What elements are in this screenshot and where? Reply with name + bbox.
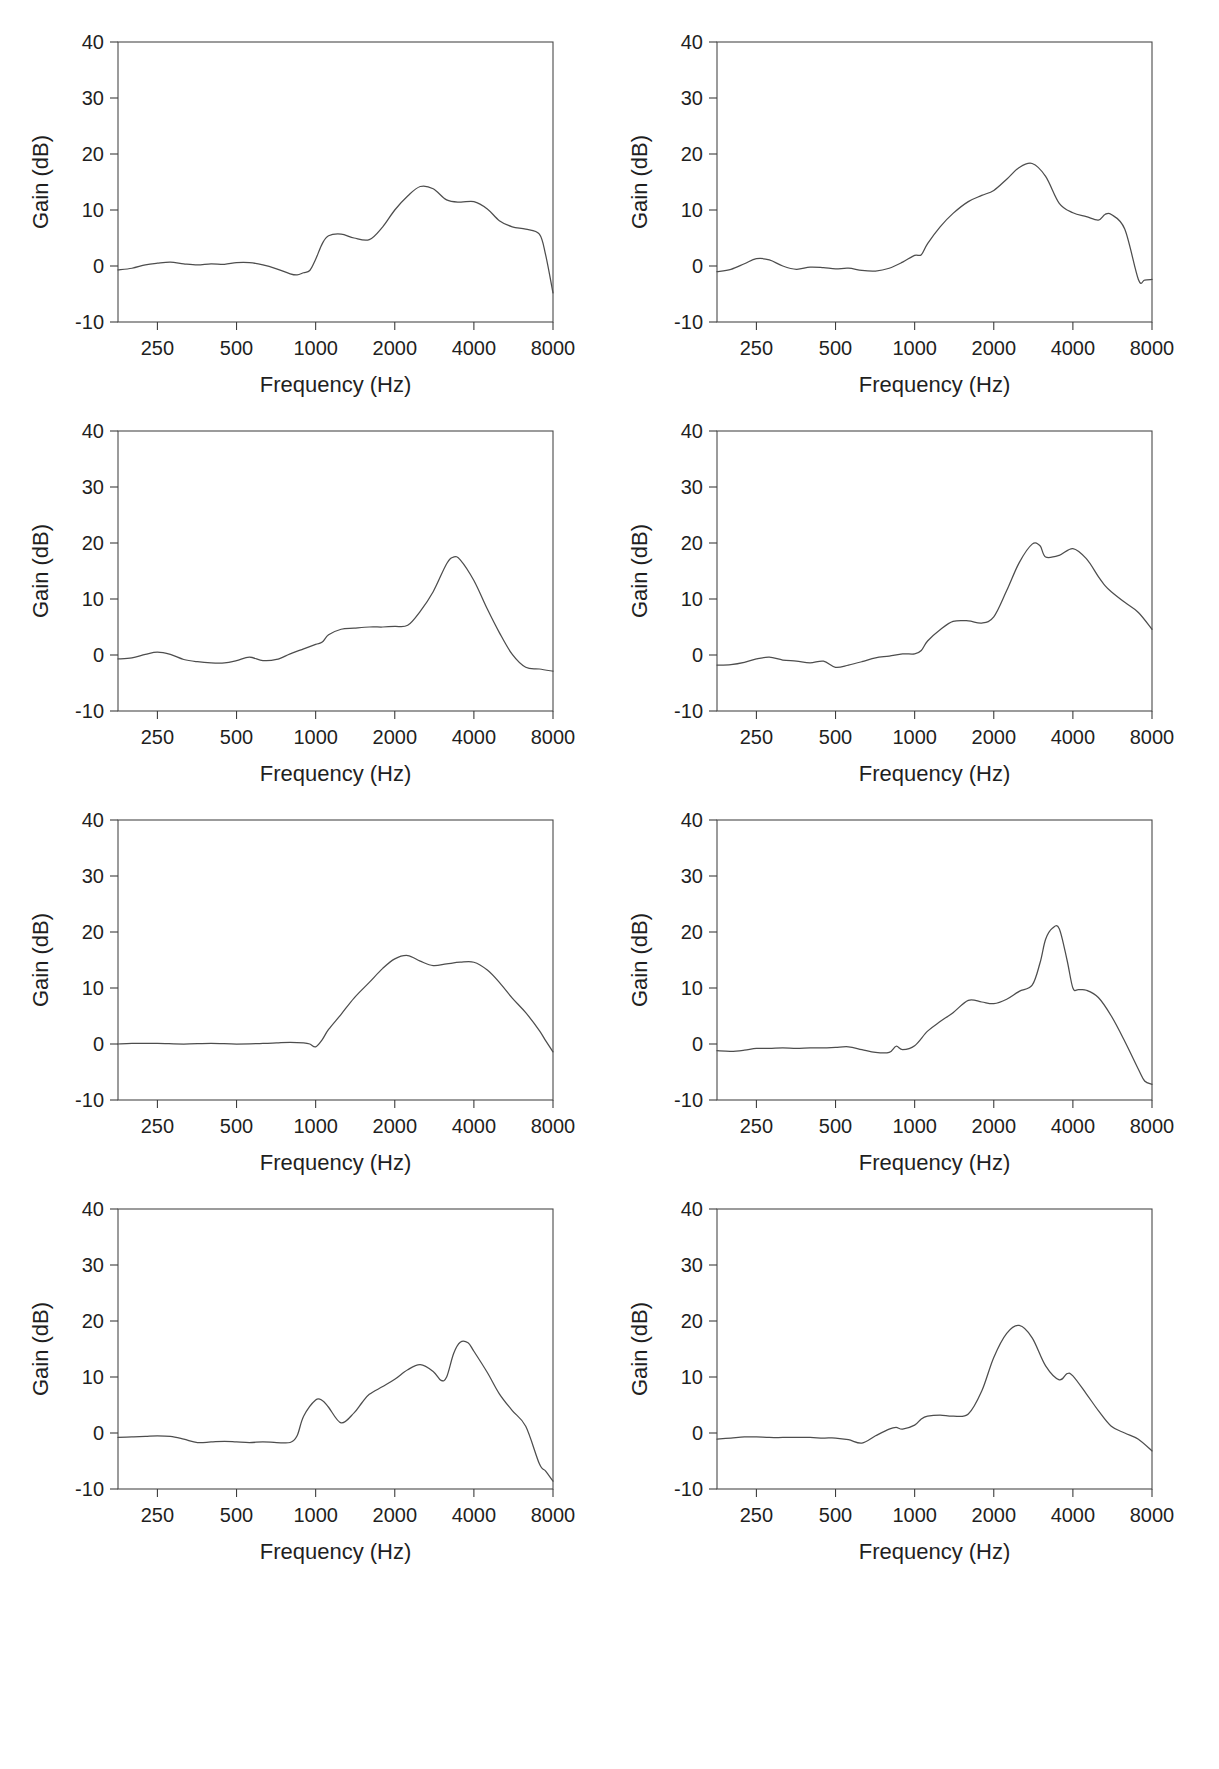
chart-panel-4: -100102030402505001000200040008000Freque… [609,405,1189,794]
y-tick-label-10: 10 [82,1366,104,1388]
x-tick-label-500: 500 [220,726,253,748]
y-tick-label-10: 10 [681,199,703,221]
x-tick-label-8000: 8000 [531,1115,576,1137]
gain-curve-panel-4 [717,543,1152,668]
y-axis-title: Gain (dB) [28,524,53,618]
x-tick-label-4000: 4000 [1051,1504,1096,1526]
y-tick-label-40: 40 [82,420,104,442]
x-tick-label-500: 500 [819,1504,852,1526]
y-tick-label-0: 0 [692,1033,703,1055]
x-tick-label-4000: 4000 [452,726,497,748]
y-tick-label-0: 0 [692,644,703,666]
x-tick-label-500: 500 [220,1504,253,1526]
x-tick-label-8000: 8000 [1130,1504,1175,1526]
chart-panel-1: -100102030402505001000200040008000Freque… [10,16,590,405]
x-tick-label-2000: 2000 [373,1504,418,1526]
x-tick-label-500: 500 [220,1115,253,1137]
x-axis-title: Frequency (Hz) [859,372,1011,397]
y-tick-label-20: 20 [681,1310,703,1332]
gain-curve-panel-6 [717,926,1152,1085]
plot-frame [118,1209,553,1489]
y-tick-label-0: 0 [692,255,703,277]
y-tick-label-40: 40 [681,420,703,442]
chart-panel-8: -100102030402505001000200040008000Freque… [609,1183,1189,1572]
x-tick-label-1000: 1000 [892,726,937,748]
y-tick-label--10: -10 [75,700,104,722]
chart-panel-3: -100102030402505001000200040008000Freque… [10,405,590,794]
x-tick-label-1000: 1000 [293,337,338,359]
y-tick-label-10: 10 [681,588,703,610]
y-tick-label-20: 20 [82,921,104,943]
y-tick-label-30: 30 [82,476,104,498]
chart-panel-5: -100102030402505001000200040008000Freque… [10,794,590,1183]
plot-frame [717,820,1152,1100]
x-axis-title: Frequency (Hz) [859,1539,1011,1564]
y-tick-label--10: -10 [674,311,703,333]
x-axis-title: Frequency (Hz) [260,372,412,397]
x-tick-label-500: 500 [220,337,253,359]
plot-frame [118,820,553,1100]
y-tick-label--10: -10 [75,311,104,333]
y-tick-label--10: -10 [674,1089,703,1111]
x-tick-label-1000: 1000 [892,1504,937,1526]
y-tick-label-40: 40 [82,809,104,831]
x-axis-title: Frequency (Hz) [260,761,412,786]
x-tick-label-250: 250 [141,726,174,748]
x-axis-title: Frequency (Hz) [859,761,1011,786]
y-axis-title: Gain (dB) [627,524,652,618]
x-tick-label-1000: 1000 [293,1504,338,1526]
y-tick-label-10: 10 [681,1366,703,1388]
x-tick-label-2000: 2000 [373,337,418,359]
y-tick-label-40: 40 [681,1198,703,1220]
gain-curve-panel-8 [717,1325,1152,1451]
x-tick-label-8000: 8000 [531,1504,576,1526]
x-tick-label-4000: 4000 [1051,1115,1096,1137]
figure-panel-grid: -100102030402505001000200040008000Freque… [0,0,1219,1572]
x-tick-label-500: 500 [819,337,852,359]
y-tick-label-40: 40 [681,31,703,53]
y-tick-label--10: -10 [674,700,703,722]
gain-curve-panel-1 [118,186,553,293]
x-tick-label-4000: 4000 [1051,726,1096,748]
x-tick-label-2000: 2000 [972,1115,1017,1137]
x-tick-label-4000: 4000 [452,1115,497,1137]
y-tick-label--10: -10 [674,1478,703,1500]
x-tick-label-250: 250 [141,1504,174,1526]
y-tick-label-20: 20 [82,1310,104,1332]
y-tick-label-0: 0 [93,255,104,277]
y-tick-label-30: 30 [681,1254,703,1276]
x-tick-label-8000: 8000 [531,726,576,748]
x-tick-label-2000: 2000 [972,726,1017,748]
y-tick-label-20: 20 [681,921,703,943]
y-tick-label-10: 10 [82,588,104,610]
y-tick-label-30: 30 [82,87,104,109]
x-tick-label-8000: 8000 [531,337,576,359]
y-axis-title: Gain (dB) [627,913,652,1007]
x-tick-label-2000: 2000 [373,726,418,748]
y-axis-title: Gain (dB) [28,135,53,229]
y-tick-label-40: 40 [82,31,104,53]
gain-curve-panel-5 [118,955,553,1051]
y-tick-label-20: 20 [681,532,703,554]
x-axis-title: Frequency (Hz) [859,1150,1011,1175]
x-tick-label-2000: 2000 [972,1504,1017,1526]
y-axis-title: Gain (dB) [28,913,53,1007]
chart-panel-2: -100102030402505001000200040008000Freque… [609,16,1189,405]
y-tick-label-20: 20 [82,532,104,554]
y-tick-label-10: 10 [681,977,703,999]
y-tick-label-30: 30 [681,476,703,498]
y-tick-label-40: 40 [82,1198,104,1220]
chart-panel-7: -100102030402505001000200040008000Freque… [10,1183,590,1572]
y-axis-title: Gain (dB) [28,1302,53,1396]
x-tick-label-500: 500 [819,1115,852,1137]
gain-curve-panel-2 [717,163,1152,283]
x-tick-label-8000: 8000 [1130,726,1175,748]
y-tick-label-0: 0 [93,1422,104,1444]
x-tick-label-2000: 2000 [373,1115,418,1137]
x-tick-label-1000: 1000 [293,1115,338,1137]
x-tick-label-8000: 8000 [1130,337,1175,359]
y-tick-label--10: -10 [75,1089,104,1111]
y-tick-label-30: 30 [82,865,104,887]
y-tick-label-20: 20 [681,143,703,165]
y-tick-label-0: 0 [692,1422,703,1444]
